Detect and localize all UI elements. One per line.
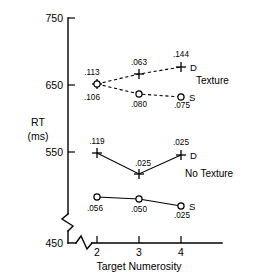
texture-s-point-label-x3: .080 [131, 100, 147, 109]
x-axis-break-symbol [76, 236, 92, 249]
y-axis-break-symbol [62, 214, 73, 231]
no-texture-s-series-tag: S [189, 201, 195, 212]
no-texture-d-point-label-x4: .025 [173, 138, 189, 147]
x-axis: 2 3 4 Target Numerosity [68, 236, 222, 272]
series-no-texture-d: .119 .025 .025 D [89, 137, 197, 179]
texture-d-point-label-x3: .063 [131, 58, 147, 67]
y-axis-title-line1: RT [31, 116, 45, 128]
no-texture-d-point-label-x2: .119 [89, 137, 105, 146]
texture-d-point-label-x2: .113 [84, 68, 100, 77]
y-tick-label-550: 550 [45, 146, 63, 158]
texture-d-series-tag: D [190, 62, 197, 73]
no-texture-d-marker-x4 [176, 150, 186, 160]
x-tick-label-4: 4 [178, 246, 184, 258]
no-texture-s-marker-x3 [136, 196, 142, 202]
texture-d-point-label-x4: .144 [173, 50, 189, 59]
texture-s-marker-x4 [178, 94, 184, 100]
group-label-no-texture: No Texture [185, 168, 234, 179]
series-texture-s: .106 .080 .075 S [84, 81, 195, 110]
texture-d-marker-x4 [176, 62, 186, 72]
chart-container: 750 650 550 450 RT (ms) 2 3 4 Target Num… [0, 0, 256, 274]
no-texture-s-point-label-x3: .050 [131, 205, 147, 214]
no-texture-s-point-label-x2: .056 [87, 204, 103, 213]
no-texture-d-marker-x2 [92, 148, 102, 158]
x-axis-title: Target Numerosity [96, 260, 182, 272]
texture-s-point-label-x2: .106 [84, 93, 100, 102]
no-texture-s-marker-x4 [178, 203, 184, 209]
x-tick-label-3: 3 [136, 246, 142, 258]
no-texture-s-marker-x2 [94, 194, 100, 200]
no-texture-d-marker-x3 [134, 169, 144, 179]
x-tick-label-2: 2 [94, 246, 100, 258]
no-texture-d-point-label-x3: .025 [135, 159, 151, 168]
rt-vs-target-numerosity-chart: 750 650 550 450 RT (ms) 2 3 4 Target Num… [0, 0, 256, 274]
series-no-texture-s: .056 .050 .025 S [87, 194, 195, 220]
series-texture-d: .113 .063 .144 D [84, 50, 197, 89]
texture-s-marker-x2 [94, 81, 100, 87]
texture-s-point-label-x4: .075 [174, 101, 190, 110]
texture-s-series-tag: S [189, 92, 195, 103]
group-label-texture: Texture [196, 75, 229, 86]
no-texture-s-point-label-x4: .025 [174, 211, 190, 220]
y-axis: 750 650 550 450 RT (ms) [28, 12, 76, 249]
y-axis-title-line2: (ms) [28, 130, 49, 142]
no-texture-d-series-tag: D [190, 150, 197, 161]
y-tick-label-750: 750 [45, 12, 63, 24]
y-tick-label-650: 650 [45, 79, 63, 91]
texture-s-marker-x3 [136, 91, 142, 97]
y-tick-label-450: 450 [45, 237, 63, 249]
texture-d-marker-x3 [134, 69, 144, 79]
